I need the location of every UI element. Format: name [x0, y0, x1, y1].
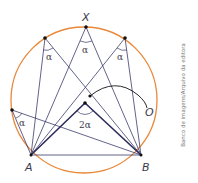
point-p3	[10, 108, 14, 112]
point-b	[140, 154, 143, 157]
chord-xa	[31, 27, 86, 155]
image-credit: Banco de imagens/Arquivo da editora	[180, 43, 186, 147]
label-alpha-x: α	[82, 45, 88, 55]
radius-oa	[31, 103, 85, 155]
chord-p2b	[125, 38, 141, 155]
point-p1	[43, 36, 47, 40]
radius-ob	[85, 103, 141, 155]
label-alpha-p2: α	[117, 52, 123, 62]
label-alpha-p3: α	[19, 118, 25, 128]
inscribed-angle-diagram: X A B O 2α α α α α	[0, 0, 198, 183]
label-b: B	[142, 161, 150, 174]
chord-p3a	[12, 110, 31, 155]
chords	[12, 27, 141, 155]
point-p2	[123, 36, 127, 40]
chord-p1a	[31, 38, 45, 155]
point-x	[84, 25, 88, 29]
point-center	[83, 101, 87, 105]
label-a: A	[24, 161, 33, 174]
angle-arc-center	[77, 111, 93, 114]
pointer-arrow-o	[90, 86, 147, 108]
points	[10, 25, 142, 156]
angle-arcs	[16, 41, 127, 118]
pointer-dot	[88, 94, 91, 97]
angle-arc-p2	[117, 48, 127, 50]
angle-arc-p1	[43, 48, 53, 50]
chord-p1b	[45, 38, 141, 155]
angle-arc-x	[80, 41, 92, 42]
label-central-angle: 2α	[79, 120, 91, 130]
point-a	[30, 154, 33, 157]
label-o: O	[145, 106, 154, 119]
label-alpha-p1: α	[46, 52, 52, 62]
chord-p3b	[12, 110, 141, 155]
label-x: X	[81, 11, 90, 24]
